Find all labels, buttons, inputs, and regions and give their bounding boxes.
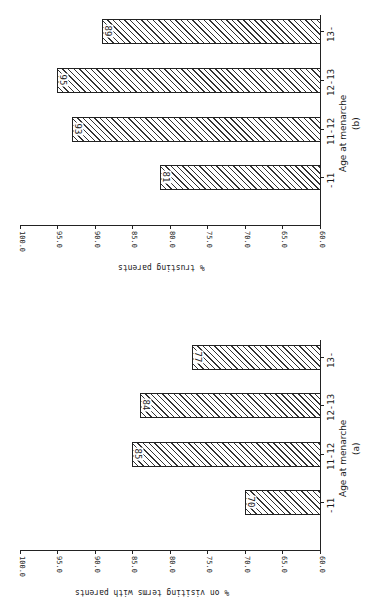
tick-label: 60.0 xyxy=(318,556,326,573)
bar-12-13 xyxy=(140,393,321,418)
tick xyxy=(132,225,133,229)
chart-a: 100.0 95.0 90.0 85.0 80.0 75.0 70.0 65.0… xyxy=(0,300,379,607)
tick xyxy=(320,405,324,406)
tick xyxy=(320,177,324,178)
bar-value-label: 85 xyxy=(133,448,143,461)
tick-label: 100.0 xyxy=(18,231,26,252)
tick xyxy=(245,550,246,554)
bar-13-plus xyxy=(192,345,321,370)
bar-value-label: 93 xyxy=(73,123,83,136)
tick-label: 90.0 xyxy=(93,556,101,573)
tick xyxy=(170,550,171,554)
tick xyxy=(20,225,21,229)
tick xyxy=(320,80,324,81)
category-label: -11 xyxy=(326,173,336,189)
tick-label: 85.0 xyxy=(130,556,138,573)
tick xyxy=(320,454,324,455)
y-axis-label: % trusting parents xyxy=(118,263,205,272)
tick-label: 70.0 xyxy=(243,556,251,573)
chart-b: 100.0 95.0 90.0 85.0 80.0 75.0 70.0 65.0… xyxy=(0,0,379,300)
tick xyxy=(320,550,321,554)
category-label: 13- xyxy=(326,26,336,42)
tick-label: 60.0 xyxy=(318,231,326,248)
tick xyxy=(95,225,96,229)
tick xyxy=(207,550,208,554)
tick xyxy=(170,225,171,229)
tick xyxy=(320,225,321,229)
tick xyxy=(207,225,208,229)
category-label: 11-12 xyxy=(326,443,336,470)
tick-label: 85.0 xyxy=(130,231,138,248)
tick-label: 95.0 xyxy=(55,231,63,248)
tick xyxy=(320,129,324,130)
tick xyxy=(57,225,58,229)
tick-label: 65.0 xyxy=(280,556,288,573)
tick-label: 90.0 xyxy=(93,231,101,248)
tick-label: 100.0 xyxy=(18,556,26,577)
tick-label: 95.0 xyxy=(55,556,63,573)
x-axis-label: Age at menarche xyxy=(338,420,348,497)
category-label: -11 xyxy=(326,498,336,514)
bar-11-12 xyxy=(72,117,321,142)
bar-value-label: 95 xyxy=(58,74,68,87)
tick xyxy=(282,550,283,554)
category-label: 12-13 xyxy=(326,69,336,96)
bar-under-11 xyxy=(160,165,321,190)
panel-label: (a) xyxy=(351,442,361,455)
tick xyxy=(320,357,324,358)
bar-11-12 xyxy=(132,442,321,467)
x-axis-label: Age at menarche xyxy=(338,95,348,172)
tick xyxy=(282,225,283,229)
bar-value-label: 89 xyxy=(103,25,113,38)
y-axis-label: % on visiting terms with parents xyxy=(75,588,229,597)
tick-label: 80.0 xyxy=(168,556,176,573)
tick xyxy=(320,31,324,32)
panel-label: (b) xyxy=(351,117,361,130)
category-label: 12-13 xyxy=(326,394,336,421)
tick xyxy=(57,550,58,554)
tick-label: 70.0 xyxy=(243,231,251,248)
bar-value-label: 84 xyxy=(141,399,151,412)
tick-label: 75.0 xyxy=(205,556,213,573)
bar-13-plus xyxy=(102,19,321,44)
tick-label: 75.0 xyxy=(205,231,213,248)
bar-value-label: 70 xyxy=(246,496,256,509)
tick xyxy=(95,550,96,554)
category-label: 13- xyxy=(326,352,336,368)
bar-12-13 xyxy=(57,68,321,93)
bar-value-label: 81 xyxy=(161,171,171,184)
category-label: 11-12 xyxy=(326,118,336,145)
tick xyxy=(132,550,133,554)
bar-value-label: 77 xyxy=(193,351,203,364)
tick-label: 80.0 xyxy=(168,231,176,248)
tick xyxy=(320,502,324,503)
tick-label: 65.0 xyxy=(280,231,288,248)
tick xyxy=(20,550,21,554)
tick xyxy=(245,225,246,229)
